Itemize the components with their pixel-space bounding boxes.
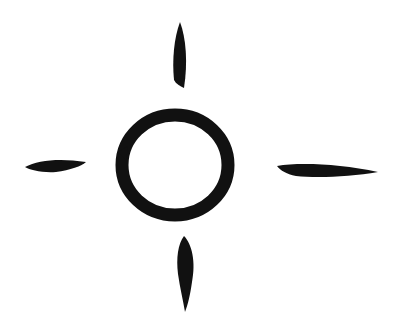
sun-compass-symbol-icon [0, 0, 398, 330]
